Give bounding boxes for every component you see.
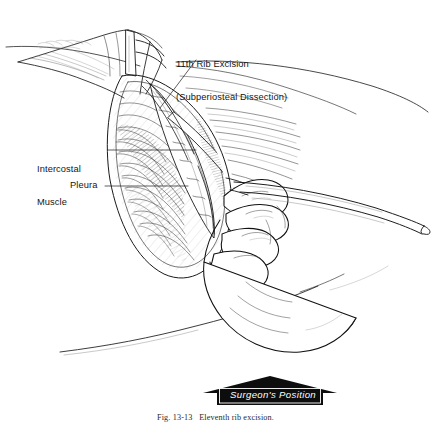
retractor [126,30,166,76]
label-rib-excision-line1: 11th Rib Excision [176,59,287,70]
label-intercostal-muscle-line2: Muscle [37,197,81,208]
surgeons-position-banner: Surgeon's Position [203,376,337,406]
label-intercostal-muscle-line1: Intercostal [37,164,81,175]
label-rib-excision: 11th Rib Excision (Subperiosteal Dissect… [176,37,287,125]
label-pleura: Pleura [70,180,97,191]
figure-container: 11th Rib Excision (Subperiosteal Dissect… [0,0,431,423]
banner-shape [203,376,337,406]
figure-caption: Fig. 13-13 Eleventh rib excision. [0,413,431,422]
label-rib-excision-line2: (Subperiosteal Dissection) [176,92,287,103]
